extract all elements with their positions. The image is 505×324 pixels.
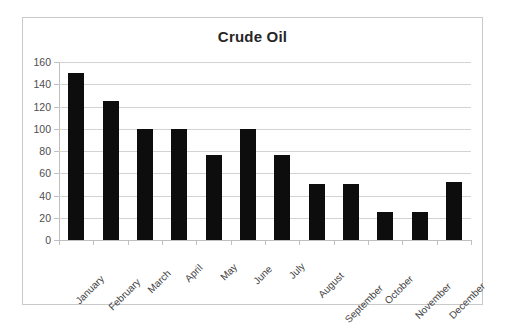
x-tick-mark (265, 240, 266, 245)
bar[interactable] (446, 182, 462, 240)
y-tick-label: 60 (39, 167, 51, 179)
x-tick-label: April (197, 248, 219, 270)
x-tick-mark (437, 240, 438, 245)
x-tick-label-text: February (106, 276, 142, 312)
x-tick-mark (162, 240, 163, 245)
y-tick-label: 80 (39, 145, 51, 157)
gridline (59, 196, 471, 197)
gridline (59, 62, 471, 63)
x-tick-label: January (99, 248, 132, 281)
plot-area: 020406080100120140160 JanuaryFebruaryMar… (59, 62, 471, 240)
gridline (59, 107, 471, 108)
x-tick-label-text: January (73, 273, 106, 306)
x-tick-label: August (338, 248, 368, 278)
y-tick-mark (54, 107, 59, 108)
x-tick-mark (196, 240, 197, 245)
x-tick-mark (299, 240, 300, 245)
y-tick-mark (54, 196, 59, 197)
chart-frame: Crude Oil 020406080100120140160 JanuaryF… (22, 17, 483, 305)
gridline (59, 151, 471, 152)
x-tick-mark (368, 240, 369, 245)
x-tick-mark (402, 240, 403, 245)
x-tick-label-text: August (316, 270, 346, 300)
bar[interactable] (137, 129, 153, 240)
bar[interactable] (377, 212, 393, 240)
y-tick-label: 20 (39, 212, 51, 224)
x-tick-label: July (299, 248, 319, 268)
y-tick-mark (54, 151, 59, 152)
y-tick-label: 0 (45, 234, 51, 246)
gridline (59, 129, 471, 130)
x-tick-label: May (231, 248, 252, 269)
x-tick-label-text: September (343, 283, 385, 324)
bar[interactable] (240, 129, 256, 240)
x-tick-label-text: May (218, 261, 239, 282)
bar[interactable] (412, 212, 428, 240)
x-tick-mark (93, 240, 94, 245)
gridline (59, 218, 471, 219)
bar[interactable] (343, 184, 359, 240)
x-tick-label-text: April (183, 262, 205, 284)
y-tick-label: 160 (33, 56, 51, 68)
x-tick-mark (128, 240, 129, 245)
y-tick-label: 120 (33, 101, 51, 113)
bar[interactable] (206, 155, 222, 240)
gridline (59, 173, 471, 174)
y-tick-label: 140 (33, 78, 51, 90)
bar[interactable] (171, 129, 187, 240)
x-tick-mark (59, 240, 60, 245)
bar[interactable] (309, 184, 325, 240)
y-tick-label: 40 (39, 190, 51, 202)
x-tick-mark (334, 240, 335, 245)
gridline (59, 84, 471, 85)
bar[interactable] (68, 73, 84, 240)
x-tick-mark (471, 240, 472, 245)
x-tick-label-text: June (251, 263, 274, 286)
chart-title: Crude Oil (23, 28, 482, 45)
y-tick-mark (54, 84, 59, 85)
x-tick-label-text: November (412, 281, 452, 321)
y-tick-mark (54, 129, 59, 130)
y-tick-mark (54, 62, 59, 63)
x-tick-mark (231, 240, 232, 245)
y-tick-mark (54, 173, 59, 174)
x-tick-label-text: July (287, 261, 307, 281)
bar[interactable] (274, 155, 290, 240)
y-tick-label: 100 (33, 123, 51, 135)
y-tick-mark (54, 218, 59, 219)
bar[interactable] (103, 101, 119, 240)
x-tick-label: June (266, 248, 289, 271)
